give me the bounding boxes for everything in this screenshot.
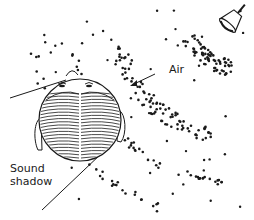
bell-icon [218,0,253,34]
air-label: Air [169,63,184,76]
sound-shadow-line1: Sound [10,162,52,175]
sound-shadow-diagram: Air Sound shadow [0,0,254,220]
sound-shadow-label: Sound shadow [10,162,52,188]
head [35,71,125,163]
nose [66,71,78,76]
sound-shadow-line2: shadow [10,175,52,188]
